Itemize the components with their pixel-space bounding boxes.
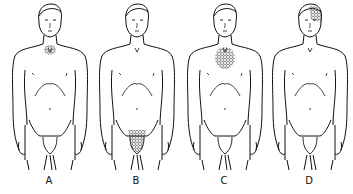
- figure-c: C: [180, 0, 268, 194]
- figure-label-c: C: [180, 175, 268, 186]
- body-outline-a: [5, 0, 93, 175]
- figure-label-b: B: [92, 175, 180, 186]
- body-outline-b: [92, 0, 180, 175]
- figure-b: B: [92, 0, 180, 194]
- figure-label-a: A: [5, 175, 93, 186]
- figure-label-d: D: [265, 175, 353, 186]
- highlight-pubic-area: [128, 130, 146, 154]
- figure-a: A: [5, 0, 93, 194]
- highlight-neck-base: [44, 45, 56, 55]
- figure-d: D: [265, 0, 353, 194]
- highlight-upper-chest: [215, 47, 235, 69]
- body-outline-d: [265, 0, 353, 175]
- body-outline-c: [180, 0, 268, 175]
